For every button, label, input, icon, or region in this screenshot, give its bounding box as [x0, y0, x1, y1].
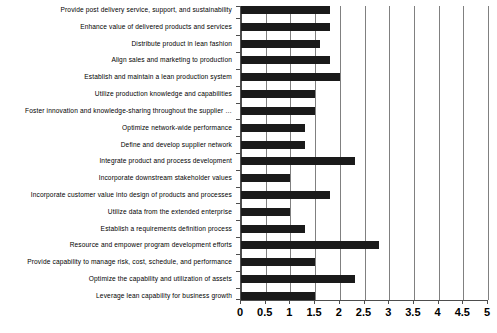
- bar: [241, 6, 330, 14]
- category-label: Foster innovation and knowledge-sharing …: [0, 107, 236, 115]
- bar: [241, 292, 315, 300]
- bar: [241, 191, 330, 199]
- bar: [241, 258, 315, 266]
- bar-row: [241, 40, 487, 48]
- bar: [241, 225, 305, 233]
- x-axis-tick: [413, 300, 414, 304]
- category-label: Define and develop supplier network: [0, 141, 236, 149]
- bar-row: [241, 6, 487, 14]
- x-axis-tick-label: 5: [484, 306, 490, 318]
- category-label: Provide capability to manage risk, cost,…: [0, 258, 236, 266]
- x-axis-tick-label: 2.5: [356, 306, 371, 318]
- category-label: Incorporate customer value into design o…: [0, 191, 236, 199]
- category-label: Enhance value of delivered products and …: [0, 23, 236, 31]
- category-axis-labels: Provide post delivery service, support, …: [0, 6, 236, 300]
- x-axis-tick-label: 4: [435, 306, 441, 318]
- bar: [241, 90, 315, 98]
- x-axis-tick: [339, 300, 340, 304]
- bar-row: [241, 56, 487, 64]
- bar-chart: Provide post delivery service, support, …: [0, 0, 497, 333]
- x-axis-ticks: [240, 300, 487, 305]
- bar: [241, 107, 315, 115]
- bar-row: [241, 157, 487, 165]
- bar-row: [241, 174, 487, 182]
- category-label: Optimize the capability and utilization …: [0, 275, 236, 283]
- bar: [241, 56, 330, 64]
- x-axis-tick-labels: 00.511.522.533.544.55: [240, 306, 487, 326]
- bar: [241, 241, 379, 249]
- bar: [241, 23, 330, 31]
- x-axis-tick: [314, 300, 315, 304]
- bar-series: [241, 6, 487, 300]
- bar-row: [241, 90, 487, 98]
- category-label: Resource and empower program development…: [0, 241, 236, 249]
- category-label: Integrate product and process developmen…: [0, 157, 236, 165]
- x-axis-tick-label: 0.5: [257, 306, 272, 318]
- bar: [241, 174, 290, 182]
- bar-row: [241, 292, 487, 300]
- gridline: [488, 6, 489, 300]
- x-axis-tick-label: 4.5: [455, 306, 470, 318]
- x-axis-tick-label: 3.5: [405, 306, 420, 318]
- x-axis-tick: [240, 300, 241, 304]
- bar-row: [241, 23, 487, 31]
- x-axis-tick-label: 2: [336, 306, 342, 318]
- x-axis-tick: [388, 300, 389, 304]
- category-label: Utilize production knowledge and capabil…: [0, 90, 236, 98]
- x-axis-tick-label: 0: [237, 306, 243, 318]
- x-axis-tick-label: 3: [385, 306, 391, 318]
- category-label: Leverage lean capability for business gr…: [0, 292, 236, 300]
- plot-area: [240, 6, 487, 300]
- x-axis-tick-label: 1.5: [306, 306, 321, 318]
- category-label: Incorporate downstream stakeholder value…: [0, 174, 236, 182]
- category-label: Utilize data from the extended enterpris…: [0, 208, 236, 216]
- bar-row: [241, 141, 487, 149]
- bar-row: [241, 275, 487, 283]
- bar-row: [241, 191, 487, 199]
- x-axis-tick: [487, 300, 488, 304]
- x-axis-tick: [462, 300, 463, 304]
- category-label: Distribute product in lean fashion: [0, 40, 236, 48]
- bar: [241, 124, 305, 132]
- category-label: Establish and maintain a lean production…: [0, 73, 236, 81]
- x-axis-tick: [289, 300, 290, 304]
- bar: [241, 157, 355, 165]
- category-label: Establish a requirements definition proc…: [0, 225, 236, 233]
- bar: [241, 208, 290, 216]
- bar-row: [241, 208, 487, 216]
- bar-row: [241, 241, 487, 249]
- category-label: Optimize network-wide performance: [0, 124, 236, 132]
- x-axis-tick-label: 1: [286, 306, 292, 318]
- bar: [241, 141, 305, 149]
- x-axis-tick: [364, 300, 365, 304]
- bar: [241, 275, 355, 283]
- category-label: Align sales and marketing to production: [0, 56, 236, 64]
- bar-row: [241, 107, 487, 115]
- x-axis-tick: [438, 300, 439, 304]
- bar-row: [241, 225, 487, 233]
- bar: [241, 73, 340, 81]
- x-axis-tick: [265, 300, 266, 304]
- bar-row: [241, 258, 487, 266]
- category-label: Provide post delivery service, support, …: [0, 6, 236, 14]
- bar-row: [241, 73, 487, 81]
- bar-row: [241, 124, 487, 132]
- bar: [241, 40, 320, 48]
